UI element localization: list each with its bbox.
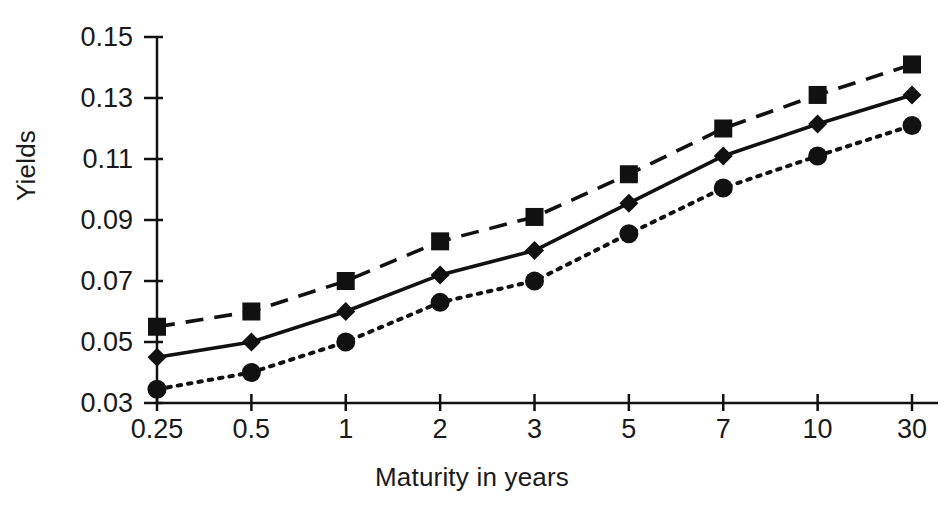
data-point-circle	[808, 146, 827, 165]
data-point-diamond	[714, 146, 733, 165]
plot-area	[0, 0, 944, 516]
chart-figure: Yields Maturity in years 0.030.050.070.0…	[0, 0, 944, 516]
data-point-diamond	[808, 114, 827, 133]
data-point-circle	[714, 178, 733, 197]
series-middle	[148, 85, 922, 366]
data-point-diamond	[619, 194, 638, 213]
data-point-diamond	[148, 348, 167, 367]
data-point-diamond	[336, 302, 355, 321]
data-point-circle	[336, 333, 355, 352]
data-point-square	[337, 272, 355, 290]
data-point-square	[431, 232, 449, 250]
data-point-square	[526, 208, 544, 226]
data-point-circle	[431, 293, 450, 312]
series-layer	[148, 55, 922, 398]
data-point-circle	[619, 224, 638, 243]
series-upper	[148, 55, 921, 335]
data-point-diamond	[525, 241, 544, 260]
data-point-circle	[148, 380, 167, 399]
data-point-circle	[242, 363, 261, 382]
data-point-diamond	[242, 333, 261, 352]
data-point-square	[809, 86, 827, 104]
data-point-circle	[903, 116, 922, 135]
series-line	[157, 95, 912, 357]
data-point-square	[714, 120, 732, 138]
data-point-square	[620, 165, 638, 183]
data-point-square	[148, 318, 166, 336]
data-point-diamond	[903, 85, 922, 104]
data-point-square	[242, 303, 260, 321]
data-point-square	[903, 55, 921, 73]
data-point-circle	[525, 272, 544, 291]
data-point-diamond	[431, 265, 450, 284]
